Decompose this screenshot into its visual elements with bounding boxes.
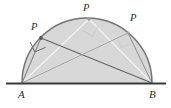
vertex-dot-p-right [127,32,130,35]
label-p-right: P [130,13,136,24]
vertex-dot-p-left [39,36,43,40]
semicircle-diagram-svg [0,0,171,108]
label-p-left: P [31,22,37,33]
label-point-a: A [18,89,25,100]
label-point-b: B [149,89,156,100]
label-p-top: P [83,3,89,14]
geometry-figure: P P P A B [0,0,171,108]
vertex-dot-p-top [88,18,91,21]
